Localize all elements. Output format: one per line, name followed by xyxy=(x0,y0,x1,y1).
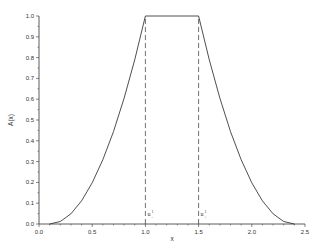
x-tick-label: 1.5 xyxy=(194,229,203,235)
x-axis-title: x xyxy=(170,235,174,242)
x-axis: 0.00.51.01.52.02.5 xyxy=(35,224,310,235)
x-tick-label: 0.0 xyxy=(35,229,44,235)
u-subscript: - xyxy=(151,215,153,220)
chart: 0.00.10.20.30.40.50.60.70.80.91.0 0.00.5… xyxy=(0,0,324,248)
y-tick-label: 0.8 xyxy=(26,55,35,61)
y-tick-label: 0.4 xyxy=(26,138,35,144)
u-label: u xyxy=(147,211,150,217)
u-superscript: 1 xyxy=(151,209,153,214)
u-label: u xyxy=(201,211,204,217)
plot-area xyxy=(50,16,295,224)
u-superscript: 1 xyxy=(205,209,207,214)
y-tick-label: 0.7 xyxy=(26,75,35,81)
y-tick-label: 0.6 xyxy=(26,96,35,102)
y-axis: 0.00.10.20.30.40.50.60.70.80.91.0 xyxy=(26,13,39,227)
y-tick-label: 0.5 xyxy=(26,117,35,123)
y-tick-label: 0.3 xyxy=(26,159,35,165)
y-tick-label: 0.9 xyxy=(26,34,35,40)
y-tick-label: 1.0 xyxy=(26,13,35,19)
x-tick-label: 0.5 xyxy=(88,229,97,235)
y-tick-label: 0.0 xyxy=(26,221,35,227)
membership-curve xyxy=(50,16,295,224)
y-axis-title: A(x) xyxy=(7,114,15,126)
u-subscript: + xyxy=(205,215,208,220)
x-tick-label: 1.0 xyxy=(141,229,150,235)
y-tick-label: 0.2 xyxy=(26,179,35,185)
x-tick-label: 2.5 xyxy=(301,229,310,235)
x-tick-label: 2.0 xyxy=(248,229,257,235)
dashed-lines xyxy=(145,16,198,224)
y-tick-label: 0.1 xyxy=(26,200,35,206)
